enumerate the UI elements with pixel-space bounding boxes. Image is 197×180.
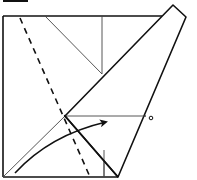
valley-fold-dashed-line — [20, 18, 90, 177]
diagram-canvas — [0, 0, 197, 180]
flap-corner-point — [64, 115, 66, 117]
origami-diagram — [0, 0, 197, 180]
folded-flap — [65, 5, 186, 177]
reference-point-circle — [149, 116, 153, 120]
